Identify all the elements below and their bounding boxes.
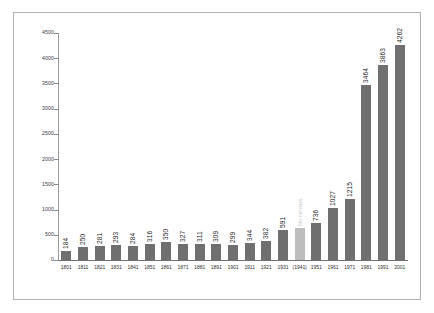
bar-value-label: 350	[163, 229, 170, 240]
bar-value-label: 4262	[396, 28, 403, 43]
bar-item[interactable]: 284	[128, 33, 138, 260]
y-axis-tick	[54, 260, 59, 261]
bar-value-label: 284	[129, 232, 136, 243]
bar-item[interactable]: 184	[61, 33, 71, 260]
bar-rect[interactable]	[361, 85, 371, 260]
bar-rect[interactable]	[95, 246, 105, 260]
bar-value-label: 327	[179, 230, 186, 241]
bar-rect[interactable]	[211, 244, 221, 260]
bar-item[interactable]: 327	[178, 33, 188, 260]
bar-value-label: 311	[196, 232, 203, 243]
x-axis-tick-label: 1861	[158, 264, 175, 270]
y-axis-tick-label: 4000	[42, 56, 54, 61]
bar-rect[interactable]	[161, 242, 171, 260]
bar-value-label: 299	[229, 232, 236, 243]
x-axis-tick-label: 1881	[191, 264, 208, 270]
bar-value-label: 309	[213, 231, 220, 242]
bar-value-label: 382	[263, 227, 270, 238]
bar-rect[interactable]	[295, 228, 305, 260]
x-axis-tick-label: 1911	[241, 264, 258, 270]
bar-value-label: 316	[146, 231, 153, 242]
bar-rect[interactable]	[111, 245, 121, 260]
bar-value-label: 281	[96, 233, 103, 244]
bar-item[interactable]: 1215	[345, 33, 355, 260]
bar-value-label: 344	[246, 229, 253, 240]
x-axis-tick-label: 1971	[341, 264, 358, 270]
x-axis-tick-label: 1891	[208, 264, 225, 270]
bar-series: 1842502812932843163503273113092993443825…	[58, 33, 408, 260]
bar-rect[interactable]	[78, 247, 88, 260]
bar-no-census-label: No census	[297, 198, 303, 225]
bar-rect[interactable]	[311, 223, 321, 260]
x-axis-tick-label: 1961	[325, 264, 342, 270]
bar-rect[interactable]	[395, 45, 405, 260]
bar-rect[interactable]	[261, 241, 271, 260]
y-axis-tick-label: 2500	[42, 131, 54, 136]
bar-rect[interactable]	[328, 208, 338, 260]
bar-rect[interactable]	[145, 244, 155, 260]
x-axis-tick-label: (1941)	[291, 264, 308, 270]
x-axis-tick-label: 1931	[275, 264, 292, 270]
bar-rect[interactable]	[345, 199, 355, 260]
plot-area: 050010001500200025003000350040004500 184…	[58, 33, 408, 273]
bar-item[interactable]: 3863	[378, 33, 388, 260]
bar-rect[interactable]	[278, 230, 288, 260]
x-axis-line	[58, 260, 408, 261]
bar-rect[interactable]	[228, 245, 238, 260]
x-axis-tick-label: 1841	[125, 264, 142, 270]
bar-value-label: 3464	[363, 68, 370, 83]
bar-item[interactable]: 299	[228, 33, 238, 260]
bar-item[interactable]: 736	[311, 33, 321, 260]
x-axis-tick-label: 1991	[375, 264, 392, 270]
bar-item[interactable]: 316	[145, 33, 155, 260]
y-axis-tick-label: 1500	[42, 182, 54, 187]
x-axis-tick-label: 1821	[91, 264, 108, 270]
bar-item[interactable]: 309	[211, 33, 221, 260]
chart-frame: 050010001500200025003000350040004500 184…	[13, 12, 421, 300]
bar-item[interactable]: 281	[95, 33, 105, 260]
y-axis-tick-label: 1000	[42, 207, 54, 212]
y-axis-tick-label: 3500	[42, 81, 54, 86]
x-axis-tick-label: 1801	[58, 264, 75, 270]
x-axis-tick-label: 1871	[175, 264, 192, 270]
bar-rect[interactable]	[378, 65, 388, 260]
bar-item[interactable]: 250	[78, 33, 88, 260]
y-axis-tick-label: 500	[45, 232, 54, 237]
bar-value-label: 591	[279, 217, 286, 228]
bar-item[interactable]: 311	[195, 33, 205, 260]
bar-item[interactable]: 4262	[395, 33, 405, 260]
x-axis-tick-label: 1851	[141, 264, 158, 270]
bar-item[interactable]: 344	[245, 33, 255, 260]
x-axis-tick-label: 1921	[258, 264, 275, 270]
y-axis-tick-label: 2000	[42, 157, 54, 162]
bar-item[interactable]: 591	[278, 33, 288, 260]
bar-value-label: 1027	[329, 191, 336, 206]
x-axis-tick-label: 2001	[391, 264, 408, 270]
bar-item[interactable]: 3464	[361, 33, 371, 260]
bar-item[interactable]: No census	[295, 33, 305, 260]
bar-rect[interactable]	[245, 243, 255, 260]
x-axis-tick-label: 1951	[308, 264, 325, 270]
bar-value-label: 293	[113, 232, 120, 243]
bar-item[interactable]: 382	[261, 33, 271, 260]
bar-item[interactable]: 293	[111, 33, 121, 260]
bar-rect[interactable]	[178, 244, 188, 260]
bar-value-label: 736	[313, 210, 320, 221]
bar-value-label: 184	[63, 237, 70, 248]
y-axis-tick-labels: 050010001500200025003000350040004500	[28, 33, 54, 260]
bar-item[interactable]: 350	[161, 33, 171, 260]
bar-rect[interactable]	[61, 251, 71, 260]
x-axis-tick-label: 1901	[225, 264, 242, 270]
x-axis-tick-label: 1811	[75, 264, 92, 270]
y-axis-tick-label: 4500	[42, 30, 54, 35]
x-axis-tick-label: 1831	[108, 264, 125, 270]
x-axis-tick-label: 1981	[358, 264, 375, 270]
bar-value-label: 1215	[346, 182, 353, 197]
bar-item[interactable]: 1027	[328, 33, 338, 260]
bar-rect[interactable]	[195, 244, 205, 260]
y-axis-tick-label: 3000	[42, 106, 54, 111]
bar-value-label: 250	[79, 234, 86, 245]
x-axis-tick-labels: 1801181118211831184118511861187118811891…	[58, 264, 408, 278]
bar-value-label: 3863	[379, 48, 386, 63]
bar-rect[interactable]	[128, 246, 138, 260]
